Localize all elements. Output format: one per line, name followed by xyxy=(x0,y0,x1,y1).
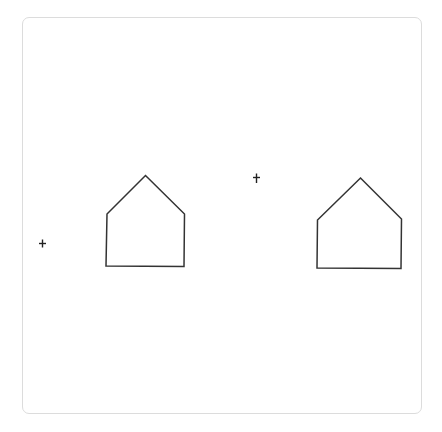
house-right-shape xyxy=(317,178,402,269)
drawing-canvas xyxy=(0,0,442,432)
cross-left-marker xyxy=(39,240,46,248)
house-left-shape xyxy=(106,176,185,267)
cross-center-marker xyxy=(253,174,260,184)
